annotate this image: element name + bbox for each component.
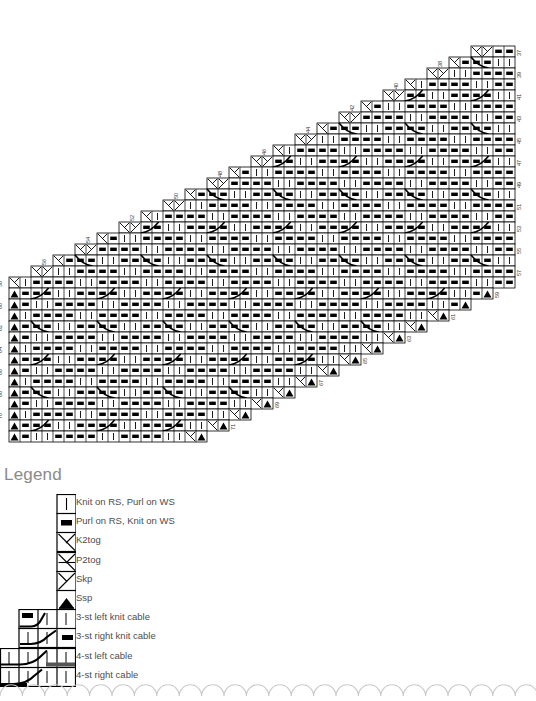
legend-item-cable-3-right-knit: 3-st right knit cable xyxy=(0,628,76,647)
page-bottom-scallop-border xyxy=(0,676,536,701)
row-number-left: 50 xyxy=(173,193,179,199)
scallop-icon xyxy=(0,676,536,701)
row-number-left: 62 xyxy=(0,325,3,331)
row-number-left: 42 xyxy=(349,105,355,111)
legend-label-k2tog: K2tog xyxy=(76,534,101,545)
legend-label-p2tog: P2tog xyxy=(76,554,101,565)
row-number-left: 44 xyxy=(305,127,311,133)
row-number-right: 55 xyxy=(516,248,522,254)
legend-item-k2tog: K2tog xyxy=(0,532,76,551)
legend-symbol-cable-3-left-knit-icon xyxy=(0,609,76,629)
legend-symbol-ssp-icon xyxy=(0,590,76,610)
legend-label-cable3l: Ssp xyxy=(76,592,92,603)
row-number-left: 38 xyxy=(437,61,443,67)
row-number-right: 63 xyxy=(406,336,412,342)
row-number-left: 58 xyxy=(0,281,3,287)
legend-label-cable4l-txt: 4-st left cable xyxy=(76,650,133,661)
legend-item-ssp: Ssp xyxy=(0,590,76,609)
legend-symbol-cable-3-right-knit-icon xyxy=(0,628,76,648)
row-number-right: 39 xyxy=(516,72,522,78)
row-number-right: 37 xyxy=(516,50,522,56)
legend-item-cable-3-left-knit: 3-st left knit cable xyxy=(0,609,76,628)
row-number-right: 67 xyxy=(318,380,324,386)
row-number-right: 57 xyxy=(516,270,522,276)
row-number-right: 53 xyxy=(516,226,522,232)
row-number-left: 56 xyxy=(41,259,47,265)
legend-item-knit: Knit on RS, Purl on WS xyxy=(0,494,76,513)
row-number-right: 45 xyxy=(516,138,522,144)
row-number-left: 68 xyxy=(0,391,3,397)
legend-label-knit: Knit on RS, Purl on WS xyxy=(76,496,175,507)
row-number-right: 47 xyxy=(516,160,522,166)
row-number-left: 48 xyxy=(217,171,223,177)
legend-item-purl: Purl on RS, Knit on WS xyxy=(0,513,76,532)
legend-title: Legend xyxy=(4,465,62,485)
row-number-right: 41 xyxy=(516,94,522,100)
legend-item-p2tog: P2tog xyxy=(0,552,76,571)
row-number-right: 59 xyxy=(494,292,500,298)
row-number-right: 71 xyxy=(230,424,236,430)
legend-symbol-p2tog-icon xyxy=(0,552,76,572)
row-number-right: 51 xyxy=(516,204,522,210)
legend-item-skp: Skp xyxy=(0,571,76,590)
row-number-left: 70 xyxy=(0,413,3,419)
legend-symbol-cable-4-left-icon xyxy=(0,648,76,668)
legend-symbol-skp-icon xyxy=(0,571,76,591)
row-number-right: 69 xyxy=(274,402,280,408)
legend-rows: Knit on RS, Purl on WS Purl on RS, Knit … xyxy=(0,494,76,686)
legend-label-purl: Purl on RS, Knit on WS xyxy=(76,515,175,526)
legend-panel: Legend Knit on RS, Purl on WS Purl on RS… xyxy=(0,462,300,682)
row-number-left: 66 xyxy=(0,369,3,375)
row-number-left: 60 xyxy=(0,303,3,309)
row-number-left: 46 xyxy=(261,149,267,155)
legend-symbol-purl-icon xyxy=(0,513,76,533)
row-number-left: 40 xyxy=(393,83,399,89)
row-number-right: 49 xyxy=(516,182,522,188)
legend-label-cable3r-txt: 3-st right knit cable xyxy=(76,630,156,641)
row-number-right: 61 xyxy=(450,314,456,320)
row-number-left: 52 xyxy=(129,215,135,221)
row-number-right: 43 xyxy=(516,116,522,122)
legend-item-cable-4-left: 4-st left cable xyxy=(0,648,76,667)
legend-symbol-knit-icon xyxy=(0,494,76,514)
row-number-right: 65 xyxy=(362,358,368,364)
row-number-left: 64 xyxy=(0,347,3,353)
legend-label-cable3l-txt: 3-st left knit cable xyxy=(76,611,150,622)
row-number-left: 54 xyxy=(85,237,91,243)
legend-symbol-k2tog-icon xyxy=(0,532,76,552)
legend-label-skp: Skp xyxy=(76,573,92,584)
